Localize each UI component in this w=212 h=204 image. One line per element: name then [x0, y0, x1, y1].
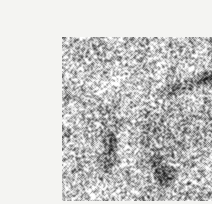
- speckle-noise-canvas: [62, 37, 212, 201]
- page-root: [0, 0, 212, 204]
- noisy-grayscale-scan: [62, 37, 212, 201]
